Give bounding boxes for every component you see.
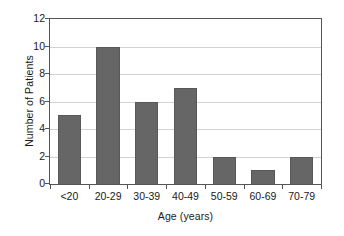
x-axis-tick-mark [321,185,322,189]
bar-chart: Number of Patients 024681012 <2020-2930-… [0,0,344,236]
bar[interactable] [174,88,197,184]
bar-slot [50,19,89,184]
bar-slot [244,19,283,184]
bar-slot [282,19,321,184]
x-axis-tick-label: <20 [50,189,89,203]
bar[interactable] [58,115,81,184]
x-axis-tick-label: 70-79 [282,189,321,203]
x-axis-title: Age (years) [49,210,322,223]
y-axis-tick-marks [0,18,49,185]
x-axis-tick-label: 40-49 [166,189,205,203]
bar-slot [127,19,166,184]
bar[interactable] [251,170,274,184]
x-axis-tick-labels: <2020-2930-3940-4950-5960-6970-79 [50,189,321,203]
bar-slot [205,19,244,184]
bars-layer [50,19,321,184]
bar[interactable] [290,157,313,185]
bar[interactable] [213,157,236,185]
x-axis-tick-label: 20-29 [89,189,128,203]
bar-slot [166,19,205,184]
bar[interactable] [135,102,158,185]
x-axis-tick-label: 30-39 [127,189,166,203]
x-axis-tick-label: 60-69 [244,189,283,203]
x-axis-tick-label: 50-59 [205,189,244,203]
bar-slot [89,19,128,184]
bar[interactable] [96,47,119,185]
